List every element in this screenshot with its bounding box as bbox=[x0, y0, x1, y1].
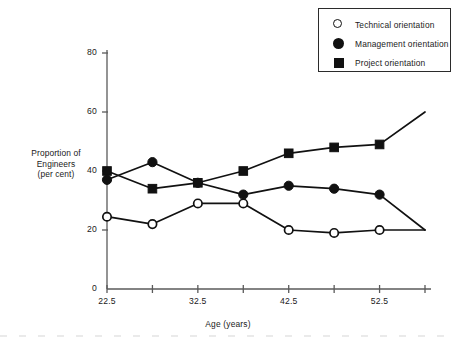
data-point-2-4 bbox=[284, 149, 293, 158]
series-line-2 bbox=[107, 112, 425, 189]
x-tick-label-22.5: 22.5 bbox=[90, 296, 124, 306]
x-tick-label-52.5: 52.5 bbox=[363, 296, 397, 306]
data-point-0-4 bbox=[285, 226, 293, 234]
data-point-1-3 bbox=[239, 190, 248, 199]
data-point-1-6 bbox=[375, 190, 384, 199]
scan-artifact bbox=[0, 335, 456, 337]
y-tick-label-0: 0 bbox=[75, 283, 97, 293]
y-tick-label-20: 20 bbox=[75, 224, 97, 234]
data-point-2-5 bbox=[330, 143, 339, 152]
data-point-1-4 bbox=[284, 181, 293, 190]
data-point-0-2 bbox=[194, 199, 202, 207]
data-point-2-3 bbox=[239, 167, 248, 176]
data-point-2-2 bbox=[194, 179, 203, 188]
chart-figure: Technical orientation Management orienta… bbox=[0, 0, 456, 340]
data-point-1-1 bbox=[148, 158, 157, 167]
axis-layer bbox=[102, 50, 431, 293]
y-tick-label-40: 40 bbox=[75, 165, 97, 175]
data-point-0-0 bbox=[103, 213, 111, 221]
data-point-1-0 bbox=[102, 175, 111, 184]
data-point-0-6 bbox=[375, 226, 383, 234]
y-tick-label-80: 80 bbox=[75, 47, 97, 57]
series-layer bbox=[102, 112, 425, 237]
x-tick-label-32.5: 32.5 bbox=[181, 296, 215, 306]
plot-area bbox=[0, 0, 456, 340]
data-point-0-5 bbox=[330, 229, 338, 237]
data-point-0-3 bbox=[239, 199, 247, 207]
data-point-2-0 bbox=[103, 167, 112, 176]
x-tick-label-42.5: 42.5 bbox=[272, 296, 306, 306]
data-point-2-6 bbox=[375, 140, 384, 149]
data-point-1-5 bbox=[330, 184, 339, 193]
y-tick-label-60: 60 bbox=[75, 106, 97, 116]
data-point-0-1 bbox=[148, 220, 156, 228]
data-point-2-1 bbox=[148, 184, 157, 193]
